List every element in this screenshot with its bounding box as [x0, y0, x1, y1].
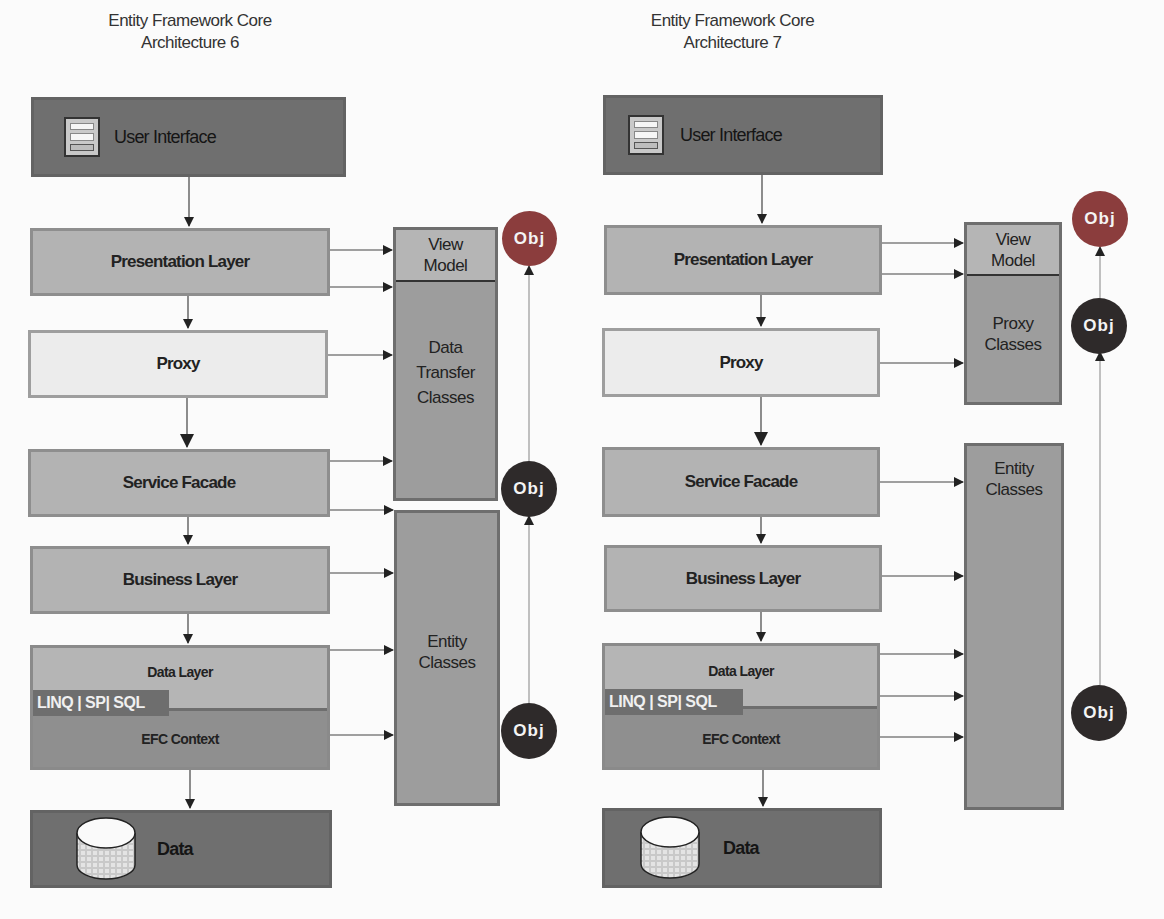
service-facade-layer: Service Facade: [28, 449, 330, 517]
entity-classes-box: Entity Classes: [964, 443, 1064, 810]
data-label: Data: [723, 838, 759, 859]
linq-sp-sql-label: LINQ | SP| SQL: [609, 693, 717, 711]
data-layer: Data Layer EFC Context LINQ | SP| SQL: [30, 645, 330, 770]
service-facade-layer: Service Facade: [602, 447, 880, 517]
proxy-label: Proxy: [156, 354, 199, 374]
obj-label: Obj: [513, 479, 544, 499]
view-model-label: View Model: [991, 229, 1035, 271]
data-store-layer: Data: [602, 808, 882, 888]
presentation-layer-label: Presentation Layer: [674, 250, 813, 270]
business-layer-label: Business Layer: [123, 570, 237, 590]
proxy-layer: Proxy: [602, 328, 880, 397]
obj-label: Obj: [1083, 316, 1114, 336]
object-node-entity: Obj: [501, 703, 557, 759]
form-window-icon: [628, 115, 664, 155]
data-transfer-label: Data Transfer Classes: [416, 338, 475, 407]
database-icon: [639, 814, 701, 882]
presentation-layer: Presentation Layer: [604, 225, 882, 295]
data-store-layer: Data: [30, 810, 332, 888]
title-line-1: Entity Framework Core: [605, 10, 860, 32]
linq-sp-sql-tag: LINQ | SP| SQL: [605, 689, 743, 715]
view-model-proxy-classes-box: View Model Proxy Classes: [964, 222, 1062, 405]
service-facade-label: Service Facade: [685, 472, 798, 492]
view-model-label: View Model: [424, 234, 468, 276]
business-layer: Business Layer: [30, 546, 330, 614]
business-layer: Business Layer: [604, 545, 882, 612]
presentation-layer-label: Presentation Layer: [111, 252, 250, 272]
efc-context: EFC Context: [605, 706, 877, 767]
data-layer-label: Data Layer: [605, 663, 877, 679]
proxy-layer: Proxy: [28, 330, 328, 398]
data-layer-label: Data Layer: [33, 664, 327, 680]
object-node-proxy: Obj: [1071, 298, 1127, 354]
obj-label: Obj: [513, 721, 544, 741]
linq-sp-sql-tag: LINQ | SP| SQL: [33, 690, 169, 716]
efc-context-label: EFC Context: [605, 731, 877, 747]
obj-label: Obj: [1084, 209, 1115, 229]
view-model-dto-box: View Model Data Transfer Classes: [393, 227, 498, 501]
entity-classes-box: Entity Classes: [394, 510, 500, 806]
diagram-title: Entity Framework Core Architecture 7: [605, 10, 860, 54]
object-node-view-model: Obj: [502, 211, 557, 266]
data-transfer-section: Data Transfer Classes: [396, 335, 495, 410]
title-line-1: Entity Framework Core: [40, 10, 340, 32]
title-line-2: Architecture 7: [605, 32, 860, 54]
user-interface-layer: User Interface: [31, 97, 346, 177]
view-model-section: View Model: [967, 225, 1059, 276]
data-layer: Data Layer EFC Context LINQ | SP| SQL: [602, 643, 880, 770]
object-node-entity: Obj: [1071, 685, 1127, 741]
user-interface-layer: User Interface: [603, 95, 883, 175]
linq-sp-sql-label: LINQ | SP| SQL: [37, 694, 145, 712]
object-node-view-model: Obj: [1072, 191, 1128, 247]
service-facade-label: Service Facade: [123, 473, 236, 493]
data-label: Data: [157, 839, 193, 860]
business-layer-label: Business Layer: [686, 569, 800, 589]
efc-context: EFC Context: [33, 708, 327, 767]
object-node-dto: Obj: [501, 461, 557, 517]
obj-label: Obj: [514, 229, 545, 249]
presentation-layer: Presentation Layer: [30, 228, 330, 296]
user-interface-label: User Interface: [114, 127, 216, 148]
proxy-label: Proxy: [719, 353, 762, 373]
diagram-title: Entity Framework Core Architecture 6: [40, 10, 340, 54]
proxy-classes-section: Proxy Classes: [967, 313, 1059, 355]
proxy-classes-label: Proxy Classes: [985, 314, 1042, 354]
database-icon: [75, 815, 137, 883]
view-model-section: View Model: [396, 230, 495, 282]
obj-label: Obj: [1083, 703, 1114, 723]
efc-context-label: EFC Context: [33, 731, 327, 747]
form-window-icon: [64, 117, 100, 157]
entity-classes-label: Entity Classes: [986, 459, 1043, 499]
entity-classes-label: Entity Classes: [419, 632, 476, 672]
title-line-2: Architecture 6: [40, 32, 340, 54]
user-interface-label: User Interface: [680, 125, 782, 146]
